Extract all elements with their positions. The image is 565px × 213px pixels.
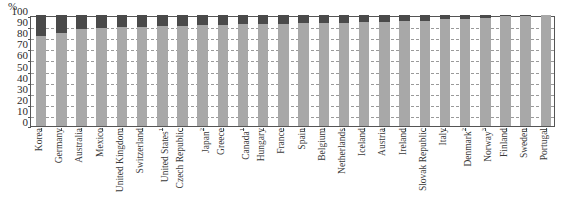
bar-hungary <box>258 15 269 126</box>
bar-segment-lower <box>36 36 47 126</box>
x-axis-label-mexico: Mexico <box>96 128 106 157</box>
bar-segment-lower <box>399 21 410 126</box>
bar-segment-lower <box>218 25 229 126</box>
y-axis-tick-mark <box>28 50 31 51</box>
y-axis-tick-100: 100 <box>0 6 28 17</box>
bar-segment-lower <box>76 29 87 126</box>
bar-segment-upper <box>460 15 471 19</box>
x-axis-label-korea: Korea <box>35 128 45 151</box>
x-axis-label-japan: Japan2 <box>197 128 212 153</box>
x-axis-label-france: France <box>277 128 287 154</box>
bar-norway <box>480 15 491 126</box>
bar-denmark <box>460 15 471 126</box>
x-axis-category-labels: KoreaGermanyAustraliaMexicoUnited Kingdo… <box>30 128 555 213</box>
bar-segment-upper <box>258 15 269 24</box>
bar-switzerland <box>137 15 148 126</box>
bar-segment-lower <box>500 16 511 126</box>
bar-austria <box>379 15 390 126</box>
x-axis-label-iceland: Iceland <box>358 128 368 156</box>
bar-segment-upper <box>76 15 87 29</box>
y-axis-tick-labels: 0102030405060708090100 <box>0 11 28 122</box>
bar-czechrepublic <box>177 15 188 126</box>
y-axis-tick-10: 10 <box>0 105 28 116</box>
bar-segment-upper <box>420 15 431 21</box>
bar-segment-upper <box>520 15 531 16</box>
bar-segment-upper <box>399 15 410 21</box>
x-axis-label-belgium: Belgium <box>318 128 328 161</box>
x-axis-label-unitedkingdom: United Kingdom <box>116 128 126 192</box>
bar-segment-upper <box>157 15 168 26</box>
bar-segment-upper <box>96 15 107 28</box>
bar-germany <box>56 15 67 126</box>
x-axis-label-switzerland: Switzerland <box>136 128 146 173</box>
bar-segment-lower <box>480 18 491 126</box>
bar-segment-upper <box>278 15 289 24</box>
bar-segment-upper <box>379 15 390 22</box>
y-axis-tick-mark <box>28 39 31 40</box>
bar-segment-upper <box>359 15 370 22</box>
bar-segment-upper <box>440 15 451 19</box>
bar-segment-upper <box>339 15 350 23</box>
bar-segment-upper <box>137 15 148 27</box>
x-axis-label-norway: Norway3 <box>479 128 494 162</box>
bar-segment-upper <box>117 15 128 27</box>
bar-segment-upper <box>480 15 491 18</box>
bar-segment-lower <box>359 22 370 126</box>
bar-segment-lower <box>460 19 471 126</box>
x-axis-label-germany: Germany <box>55 128 65 163</box>
y-axis-tick-50: 50 <box>0 61 28 72</box>
bar-korea <box>36 15 47 126</box>
bar-segment-upper <box>56 15 67 33</box>
bar-segment-upper <box>218 15 229 25</box>
bar-iceland <box>359 15 370 126</box>
bar-segment-upper <box>319 15 330 23</box>
y-axis-tick-mark <box>28 117 31 118</box>
x-axis-label-spain: Spain <box>298 128 308 150</box>
x-axis-label-greece: Greece <box>217 128 227 155</box>
plot-area <box>30 16 555 127</box>
y-axis-tick-mark <box>28 28 31 29</box>
bar-segment-lower <box>96 28 107 126</box>
x-axis-label-austria: Austria <box>378 128 388 156</box>
y-axis-tick-30: 30 <box>0 83 28 94</box>
x-axis-label-canada: Canada1 <box>237 128 252 160</box>
bar-segment-lower <box>319 23 330 126</box>
x-axis-label-australia: Australia <box>75 128 85 163</box>
bar-greece <box>218 15 229 126</box>
x-axis-label-finland: Finland <box>500 128 510 157</box>
y-axis-tick-90: 90 <box>0 17 28 28</box>
bar-france <box>278 15 289 126</box>
bar-sweden <box>520 15 531 126</box>
y-axis-tick-60: 60 <box>0 50 28 61</box>
bar-italy <box>440 15 451 126</box>
y-axis-tick-80: 80 <box>0 28 28 39</box>
y-axis-tick-mark <box>28 95 31 96</box>
x-axis-label-denmark: Denmark2 <box>459 128 474 167</box>
bar-spain <box>298 15 309 126</box>
chart-figure: % 0102030405060708090100 KoreaGermanyAus… <box>0 0 565 213</box>
bar-netherlands <box>339 15 350 126</box>
bar-unitedstates <box>157 15 168 126</box>
bar-segment-upper <box>298 15 309 23</box>
x-axis-label-portugal: Portugal <box>540 128 550 160</box>
bar-segment-lower <box>440 19 451 126</box>
bar-portugal <box>541 15 552 126</box>
bar-segment-lower <box>56 33 67 126</box>
bar-segment-upper <box>500 15 511 16</box>
bar-segment-lower <box>177 26 188 126</box>
bar-segment-upper <box>238 15 249 24</box>
bar-mexico <box>96 15 107 126</box>
x-axis-label-hungary: Hungary <box>257 128 267 161</box>
y-axis-tick-40: 40 <box>0 72 28 83</box>
bar-segment-upper <box>177 15 188 26</box>
bar-segment-lower <box>379 22 390 126</box>
bar-segment-lower <box>238 24 249 126</box>
bar-segment-lower <box>298 23 309 126</box>
x-axis-label-slovakrepublic: Slovak Republic <box>419 128 429 191</box>
bar-segment-lower <box>339 23 350 126</box>
bar-segment-lower <box>137 27 148 126</box>
bar-segment-lower <box>420 21 431 126</box>
x-axis-label-italy: Italy <box>439 128 449 145</box>
bar-ireland <box>399 15 410 126</box>
bar-canada <box>238 15 249 126</box>
